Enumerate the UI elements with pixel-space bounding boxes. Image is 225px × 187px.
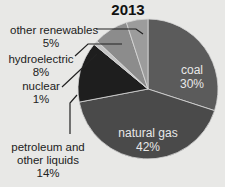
- hydroelectric-name: hydroelectric: [6, 53, 76, 66]
- petroleum-line1: petroleum and: [8, 141, 88, 154]
- other-renewables-name: other renewables: [10, 24, 92, 37]
- petroleum-pct: 14%: [8, 167, 88, 180]
- label-coal: coal 30%: [172, 63, 212, 91]
- label-other-renewables: other renewables 5%: [10, 24, 92, 50]
- label-nuclear: nuclear 1%: [18, 80, 64, 106]
- label-natural-gas: natural gas 42%: [113, 126, 183, 154]
- nuclear-name: nuclear: [18, 80, 64, 93]
- coal-pct: 30%: [172, 77, 212, 91]
- natural-gas-name: natural gas: [113, 126, 183, 140]
- petroleum-line2: other liquids: [8, 154, 88, 167]
- natural-gas-pct: 42%: [113, 140, 183, 154]
- coal-name: coal: [172, 63, 212, 77]
- nuclear-pct: 1%: [18, 93, 64, 106]
- hydroelectric-pct: 8%: [6, 66, 76, 79]
- label-petroleum: petroleum and other liquids 14%: [8, 141, 88, 180]
- label-hydroelectric: hydroelectric 8%: [6, 53, 76, 79]
- other-renewables-pct: 5%: [10, 37, 92, 50]
- leader-petroleum: [70, 95, 77, 134]
